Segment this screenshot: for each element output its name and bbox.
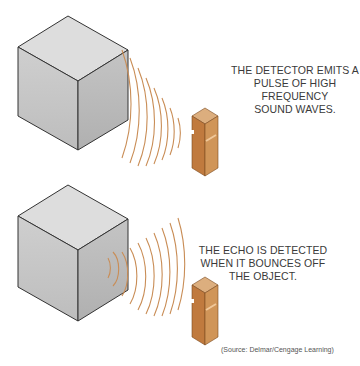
caption-echo-line-2: WHEN IT BOUNCES OFF xyxy=(193,257,333,270)
caption-emit-line-1: THE DETECTOR EMITS A xyxy=(220,64,360,77)
caption-emit-line-3: SOUND WAVES. xyxy=(220,103,360,116)
ultrasonic-detector-bottom xyxy=(191,277,218,345)
ultrasonic-detector-top xyxy=(191,108,218,176)
sound-waves-emitted xyxy=(122,50,180,166)
source-credit: (Source: Delmar/Cengage Learning) xyxy=(221,346,334,353)
caption-echo: THE ECHO IS DETECTED WHEN IT BOUNCES OFF… xyxy=(193,244,333,283)
caption-emit: THE DETECTOR EMITS A PULSE OF HIGH FREQU… xyxy=(220,64,360,116)
object-cube-top xyxy=(18,16,128,150)
diagram-canvas xyxy=(0,0,360,366)
object-cube-bottom xyxy=(18,185,128,321)
caption-echo-line-3: THE OBJECT. xyxy=(193,270,333,283)
caption-echo-line-1: THE ECHO IS DETECTED xyxy=(193,244,333,257)
caption-emit-line-2: PULSE OF HIGH FREQUENCY xyxy=(220,77,360,103)
